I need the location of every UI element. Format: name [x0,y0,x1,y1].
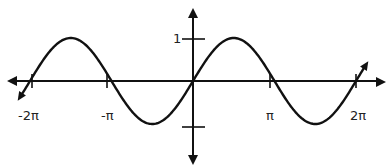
x-tick-label-2pi: 2π [350,108,366,123]
x-axis-right-arrow-icon [376,77,386,87]
sine-graph [0,0,387,168]
y-axis-up-arrow-icon [188,8,198,18]
x-tick-label-pi: π [266,108,274,123]
x-tick-label-neg-pi: -π [101,108,114,123]
x-tick-label-neg-2pi: -2π [18,108,39,123]
x-axis-left-arrow-icon [7,76,17,86]
y-tick-label-1: 1 [173,31,181,46]
y-axis-down-arrow-icon [188,155,198,165]
